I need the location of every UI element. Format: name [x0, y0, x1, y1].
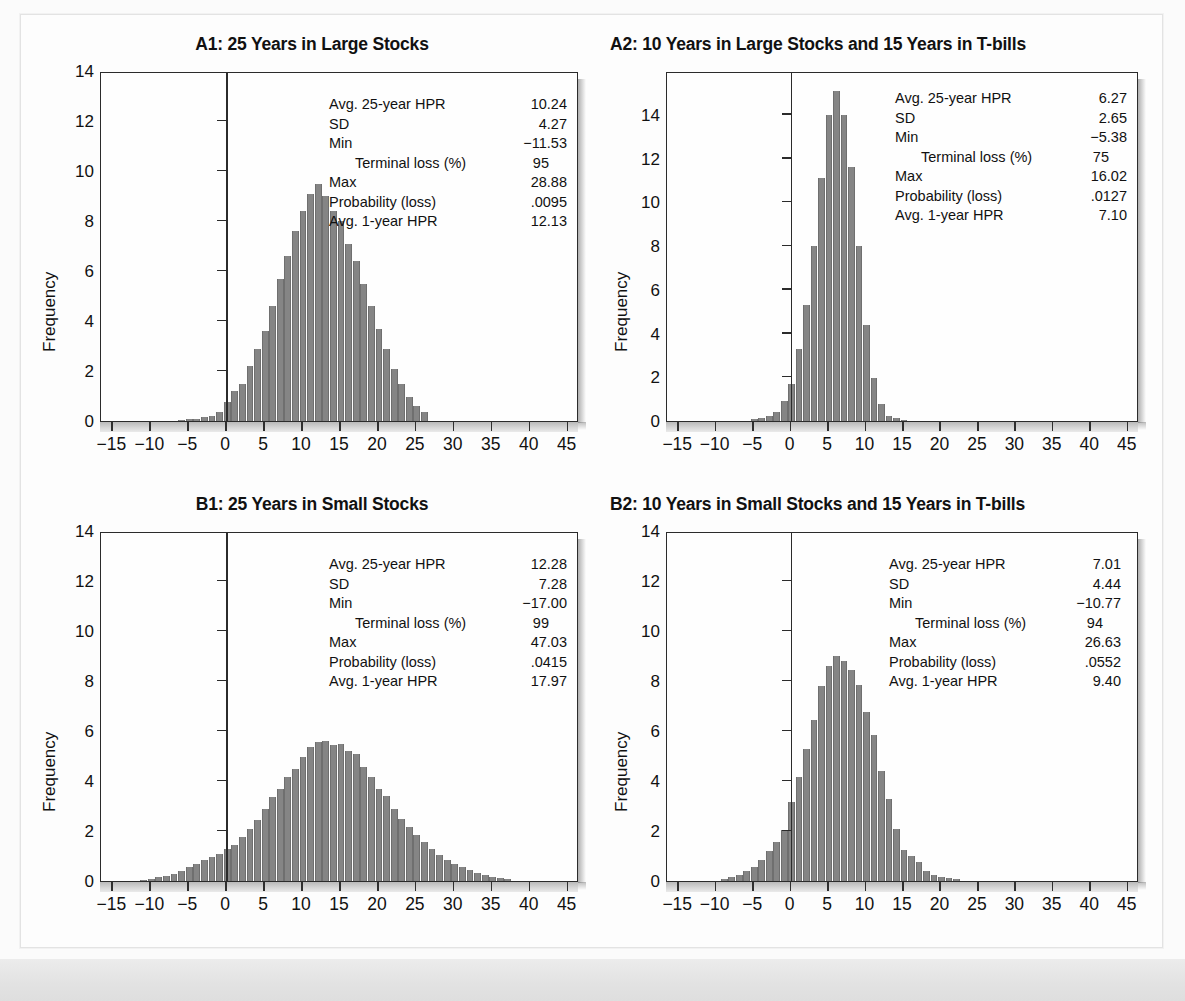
histogram-bar — [818, 178, 825, 421]
stat-row: Probability (loss).0095 — [329, 193, 567, 213]
stat-label-min: Min — [329, 134, 352, 154]
stat-value-sd: 4.27 — [539, 115, 567, 135]
panel-b1-title: B1: 25 Years in Small Stocks — [32, 494, 592, 515]
stat-label-prob_loss: Probability (loss) — [889, 653, 996, 673]
x-tick-mark — [339, 422, 341, 431]
histogram-bar — [269, 306, 276, 421]
histogram-bar — [751, 867, 758, 881]
x-tick-mark — [111, 882, 113, 891]
x-tick-label: 5 — [822, 434, 832, 455]
x-tick-mark — [377, 882, 379, 891]
panel-b1-zero-axis — [226, 533, 228, 881]
panel-a1-yticks: 02468101214 — [32, 72, 100, 422]
stat-label-avg1: Avg. 1-year HPR — [895, 206, 1004, 226]
x-tick-mark — [377, 422, 379, 431]
stat-row: Min−5.38 — [895, 128, 1127, 148]
stat-row: SD4.27 — [329, 115, 567, 135]
stat-value-avg25: 7.01 — [1093, 555, 1121, 575]
scanned-page: A1: 25 Years in Large Stocks Frequency 0… — [0, 0, 1185, 1001]
stat-value-prob_loss: .0127 — [1091, 187, 1127, 207]
x-tick-label: 5 — [822, 894, 832, 915]
x-tick-mark — [301, 422, 303, 431]
x-tick-mark — [491, 422, 493, 431]
panel-a2-yticks: 02468101214 — [604, 72, 666, 422]
y-tick-label: 0 — [85, 412, 94, 432]
histogram-bar — [871, 735, 878, 881]
histogram-bar — [383, 349, 390, 422]
histogram-bar — [796, 349, 803, 421]
histogram-bar — [239, 837, 246, 881]
histogram-bar — [833, 656, 840, 881]
stat-row: Avg. 1-year HPR12.13 — [329, 212, 567, 232]
histogram-bar — [721, 879, 728, 881]
x-tick-label: −5 — [177, 894, 197, 915]
panel-b2-frame: Avg. 25-year HPR7.01SD4.44Min−10.77Termi… — [666, 532, 1138, 882]
histogram-bar — [269, 797, 276, 881]
x-tick-mark — [827, 422, 829, 431]
histogram-bar — [338, 221, 345, 421]
histogram-bar — [330, 211, 337, 421]
histogram-bar — [330, 745, 337, 881]
panel-b1-frame: Avg. 25-year HPR12.28SD7.28Min−17.00Term… — [100, 532, 578, 882]
panel-a2-plot: Frequency 02468101214 Avg. 25-year HPR6.… — [604, 72, 1152, 472]
stat-row: Terminal loss (%)94 — [889, 614, 1121, 634]
x-tick-mark — [415, 882, 417, 891]
x-tick-mark — [902, 882, 904, 891]
figure-grid: A1: 25 Years in Large Stocks Frequency 0… — [20, 14, 1161, 946]
panel-a1-plot: Frequency 02468101214 Avg. 25-year HPR10… — [32, 72, 592, 472]
histogram-bar — [916, 862, 923, 881]
stat-value-min: −11.53 — [523, 134, 567, 154]
x-tick-label: 5 — [258, 434, 268, 455]
stat-label-terminal_loss: Terminal loss (%) — [355, 614, 466, 634]
histogram-bar — [781, 830, 788, 881]
y-tick-label: 6 — [85, 262, 94, 282]
stat-row: Max26.63 — [889, 633, 1121, 653]
stat-row: Min−11.53 — [329, 134, 567, 154]
panel-b1: B1: 25 Years in Small Stocks Frequency 0… — [32, 494, 592, 944]
stat-value-terminal_loss: 99 — [533, 614, 549, 634]
histogram-bar — [391, 809, 398, 882]
panel-b1-yticks: 02468101214 — [32, 532, 100, 882]
y-tick-label: 6 — [651, 722, 660, 742]
y-tick-label: 12 — [75, 572, 94, 592]
x-tick-mark — [149, 882, 151, 891]
histogram-bar — [406, 827, 413, 881]
x-tick-label: 20 — [930, 894, 949, 915]
histogram-bar — [406, 397, 413, 421]
stat-label-prob_loss: Probability (loss) — [895, 187, 1002, 207]
x-tick-label: 25 — [405, 434, 424, 455]
histogram-bar — [284, 256, 291, 421]
stat-row: SD4.44 — [889, 575, 1121, 595]
x-tick-label: 25 — [967, 434, 986, 455]
panel-a2: A2: 10 Years in Large Stocks and 15 Year… — [604, 34, 1152, 484]
histogram-bar — [413, 406, 420, 421]
x-tick-mark — [567, 422, 569, 431]
y-tick-label: 0 — [651, 872, 660, 892]
histogram-bar — [368, 777, 375, 881]
x-tick-label: 15 — [329, 894, 348, 915]
stat-label-min: Min — [895, 128, 918, 148]
stat-row: Max16.02 — [895, 167, 1127, 187]
x-tick-label: 45 — [557, 434, 576, 455]
y-tick-mark — [782, 245, 791, 247]
y-tick-mark — [217, 220, 226, 222]
x-tick-label: 20 — [367, 434, 386, 455]
histogram-bar — [201, 417, 208, 421]
histogram-bar — [908, 856, 915, 881]
stat-value-max: 47.03 — [531, 633, 567, 653]
stat-value-sd: 2.65 — [1099, 109, 1127, 129]
x-tick-label: 15 — [892, 894, 911, 915]
panel-a2-stats: Avg. 25-year HPR6.27SD2.65Min−5.38Termin… — [895, 89, 1127, 226]
panel-b1-xaxis-line — [100, 882, 578, 892]
histogram-bar — [315, 742, 322, 881]
stat-row: Avg. 25-year HPR12.28 — [329, 555, 567, 575]
histogram-bar — [758, 860, 765, 881]
y-tick-label: 10 — [641, 193, 660, 213]
histogram-bar — [848, 167, 855, 421]
panel-b1-plot: Frequency 02468101214 Avg. 25-year HPR12… — [32, 532, 592, 932]
stat-label-min: Min — [889, 594, 912, 614]
stat-row: Min−17.00 — [329, 594, 567, 614]
x-tick-label: −5 — [742, 434, 762, 455]
y-tick-label: 12 — [641, 572, 660, 592]
panel-a1-zero-axis — [226, 73, 228, 421]
